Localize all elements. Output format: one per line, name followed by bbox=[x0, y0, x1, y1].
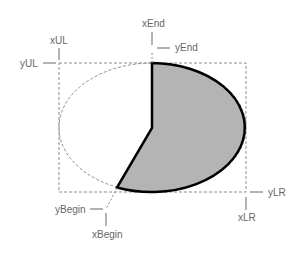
label-ylr: yLR bbox=[268, 187, 286, 198]
pie-slice bbox=[117, 63, 245, 192]
label-ybegin: yBegin bbox=[55, 204, 86, 215]
label-xlr: xLR bbox=[238, 212, 256, 223]
label-xend: xEnd bbox=[142, 18, 165, 29]
label-yul: yUL bbox=[20, 58, 38, 69]
label-xbegin: xBegin bbox=[92, 229, 123, 240]
label-xul: xUL bbox=[50, 35, 68, 46]
begin-radial-guide bbox=[106, 188, 117, 209]
pie-geometry-diagram: xUL yUL xEnd yEnd xLR yLR yBegin xBegin bbox=[0, 0, 305, 258]
label-yend: yEnd bbox=[175, 42, 198, 53]
